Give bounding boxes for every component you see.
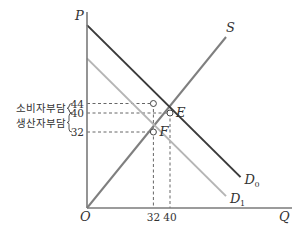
chart: PQOSD0D14440323240소비자부담생산자부담EF xyxy=(0,0,304,235)
origin-label: O xyxy=(80,209,91,224)
series-line-d1 xyxy=(87,58,226,196)
point-label-e: E xyxy=(175,105,186,120)
y-tick-32: 32 xyxy=(71,126,84,138)
series-line-s xyxy=(87,37,226,208)
series-label-d0-sub: 0 xyxy=(255,180,260,189)
y-axis-label: P xyxy=(74,8,84,23)
series-label-d1-sub: 1 xyxy=(240,199,245,208)
x-axis-label: Q xyxy=(279,209,290,224)
point-consumer-price xyxy=(150,101,156,107)
annotation-producer-burden: 생산자부담 xyxy=(16,117,66,129)
point-label-f: F xyxy=(158,124,169,139)
annotation-consumer-burden: 소비자부담 xyxy=(16,102,66,114)
point-f xyxy=(150,129,156,135)
point-e xyxy=(167,110,173,116)
series-label-s: S xyxy=(226,20,235,35)
x-tick-40: 40 xyxy=(163,211,176,223)
y-tick-40: 40 xyxy=(71,107,84,119)
x-tick-32: 32 xyxy=(147,211,160,223)
